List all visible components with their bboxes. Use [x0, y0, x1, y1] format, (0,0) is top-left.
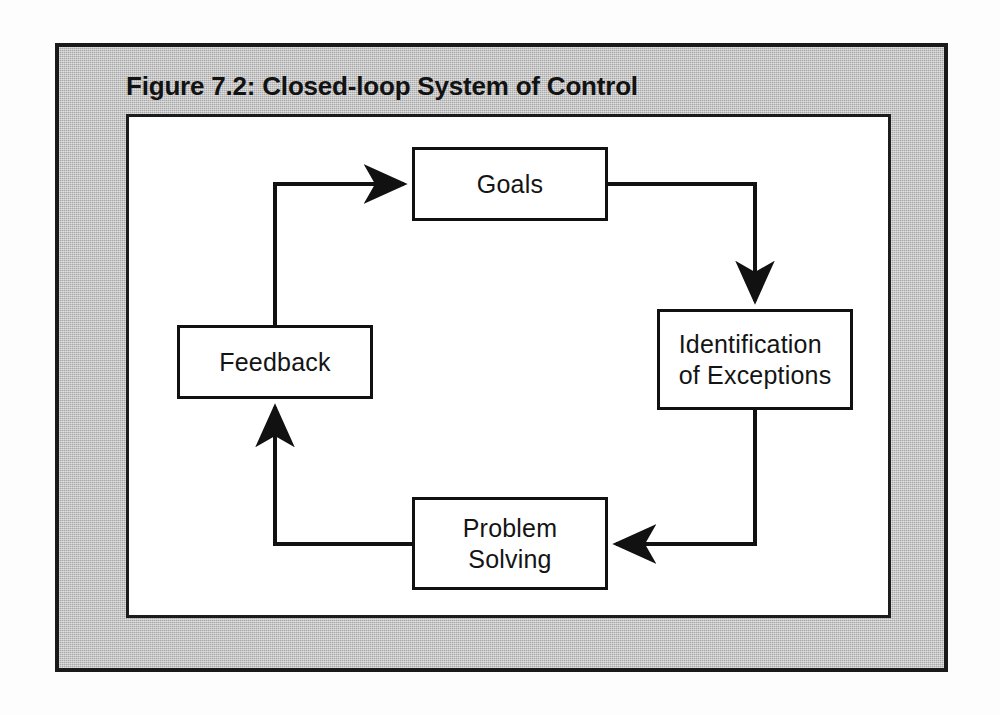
- node-feedback[interactable]: Feedback: [177, 325, 373, 399]
- node-problem-label: Problem Solving: [463, 513, 558, 574]
- edge-identification-to-problem: [616, 410, 755, 544]
- node-feedback-label: Feedback: [219, 347, 330, 378]
- edge-problem-to-feedback: [275, 407, 412, 544]
- node-goals-label: Goals: [477, 169, 543, 200]
- node-identification-label: Identification of Exceptions: [679, 329, 832, 390]
- node-identification[interactable]: Identification of Exceptions: [657, 309, 853, 410]
- diagram-canvas: Goals Identification of Exceptions Probl…: [126, 114, 891, 618]
- node-goals[interactable]: Goals: [412, 147, 608, 221]
- edge-goals-to-identification: [608, 184, 755, 301]
- figure-plate: Figure 7.2: Closed-loop System of Contro…: [55, 43, 948, 672]
- figure-title: Figure 7.2: Closed-loop System of Contro…: [126, 71, 638, 102]
- figure-page: Figure 7.2: Closed-loop System of Contro…: [0, 0, 1000, 715]
- node-problem[interactable]: Problem Solving: [412, 497, 608, 590]
- edge-feedback-to-goals: [275, 184, 404, 325]
